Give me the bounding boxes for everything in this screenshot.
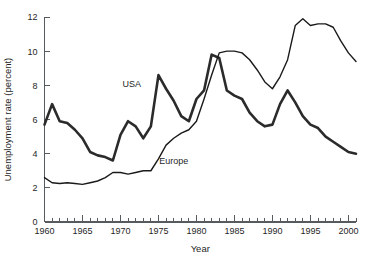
y-tick-label: 6 (32, 115, 37, 125)
x-tick-label: 1995 (300, 226, 320, 236)
data-series-group (45, 19, 357, 185)
y-axis-tick-labels: 024681012 (27, 12, 37, 227)
y-axis-title: Unemployment rate (percent) (2, 58, 13, 182)
y-tick-label: 8 (32, 81, 37, 91)
x-axis-title: Year (191, 243, 210, 254)
x-tick-label: 1990 (262, 226, 282, 236)
y-tick-label: 4 (32, 149, 37, 159)
x-tick-label: 1965 (72, 226, 92, 236)
series-line-europe (45, 19, 357, 185)
chart-canvas: 024681012 196019651970197519801985199019… (0, 0, 369, 273)
x-tick-label: 1975 (148, 226, 168, 236)
y-tick-label: 12 (27, 12, 37, 22)
x-tick-label: 1970 (110, 226, 130, 236)
y-tick-label: 10 (27, 47, 37, 57)
y-tick-label: 2 (32, 183, 37, 193)
series-label-europe: Europe (159, 156, 188, 166)
x-tick-label: 2000 (338, 226, 358, 236)
series-line-usa (45, 55, 357, 161)
x-axis-tick-labels: 196019651970197519801985199019952000 (34, 226, 358, 236)
x-tick-label: 1960 (34, 226, 54, 236)
unemployment-rate-line-chart: 024681012 196019651970197519801985199019… (0, 0, 369, 273)
x-tick-label: 1980 (186, 226, 206, 236)
series-label-usa: USA (123, 79, 142, 89)
x-tick-label: 1985 (224, 226, 244, 236)
